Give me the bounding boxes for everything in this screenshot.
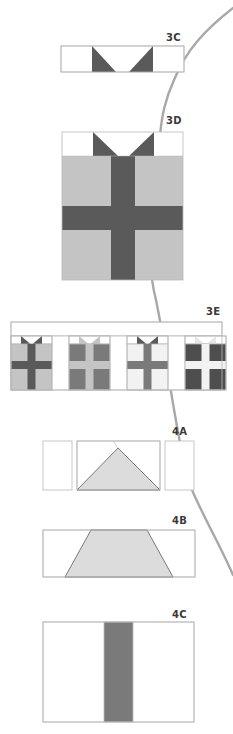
piece-3c-background (61, 46, 184, 72)
gift-4-ribbon-horizontal (185, 361, 226, 369)
quilt-diagram: 3C 3D 3E 4A 4B 4C (0, 0, 233, 734)
gift-4-bow-row (185, 336, 226, 344)
gift-1-ribbon-horizontal (11, 361, 52, 369)
label-4c: 4C (172, 610, 187, 620)
piece-3d-bow-row (62, 132, 183, 156)
quilt-pieces-artwork (0, 0, 233, 734)
label-3d: 3D (166, 116, 182, 126)
piece-4a-right-rect (165, 441, 194, 490)
piece-3d-ribbon-vertical-top (111, 156, 135, 280)
label-4a: 4A (172, 427, 187, 437)
gift-2-ribbon-horizontal (69, 361, 110, 369)
piece-4c-center-strip (104, 622, 133, 722)
gift-3-ribbon-horizontal (127, 361, 168, 369)
piece-4a-left-rect (43, 441, 72, 490)
gift-2-bow-row (69, 336, 110, 344)
label-3c: 3C (166, 33, 181, 43)
label-3e: 3E (206, 307, 220, 317)
gift-1-bow-row (11, 336, 52, 344)
label-4b: 4B (172, 516, 187, 526)
piece-3e-top-sashing (11, 322, 222, 336)
gift-3-bow-row (127, 336, 168, 344)
